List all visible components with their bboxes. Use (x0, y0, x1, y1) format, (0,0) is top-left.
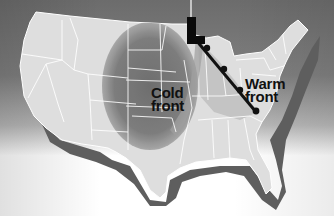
warm-front-label: Warm front (245, 77, 285, 103)
cold-front-label: Cold front (151, 86, 184, 112)
weather-map: Cold front Warm front (0, 0, 334, 216)
low-pressure-icon (187, 17, 205, 44)
cold-front-label-line2: front (151, 99, 184, 112)
